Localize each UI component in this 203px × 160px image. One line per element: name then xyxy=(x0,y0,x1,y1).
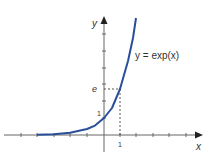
exp-chart: y x y = exp(x) e 1 1 xyxy=(0,0,203,160)
curve-label: y = exp(x) xyxy=(135,50,179,61)
x-one-label: 1 xyxy=(118,141,122,148)
y-axis-label: y xyxy=(91,18,98,29)
x-axis-label: x xyxy=(195,141,202,152)
y-one-label: 1 xyxy=(97,110,101,117)
y-axis-arrow-icon xyxy=(101,16,108,24)
e-label: e xyxy=(92,84,97,94)
x-axis-arrow-icon xyxy=(195,132,203,139)
exp-curve xyxy=(37,18,136,135)
